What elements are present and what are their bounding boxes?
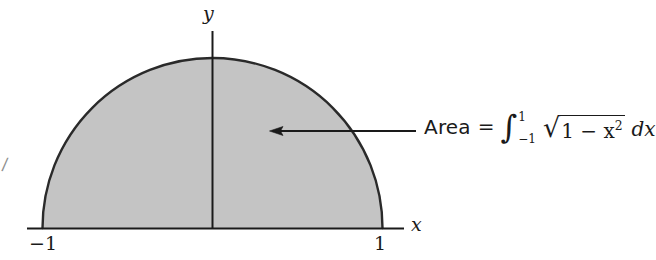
radical-sign-icon: √ (543, 114, 560, 142)
square-root-expression: √ 1 − x2 (543, 113, 625, 141)
x-tick-label-negative-one: −1 (29, 234, 57, 253)
integral-limits: 1 −1 (518, 111, 536, 145)
radicand-exponent: 2 (615, 118, 623, 133)
radicand-base: 1 − x (561, 119, 614, 143)
x-tick-label-positive-one: 1 (374, 234, 386, 253)
y-axis-label: y (203, 4, 214, 23)
area-annotation: Area = ∫ 1 −1 √ 1 − x2 dx (424, 110, 656, 144)
differential-dx: dx (632, 117, 656, 141)
scan-artifact-mark: / (1, 156, 13, 175)
integral-expression: ∫ 1 −1 (501, 110, 536, 144)
integral-sign-icon: ∫ (501, 115, 518, 141)
radicand: 1 − x2 (560, 115, 624, 143)
figure-root: y x −1 1 Area = ∫ 1 −1 √ 1 − x2 dx / (0, 0, 656, 260)
area-word-label: Area (424, 115, 471, 139)
x-axis-label: x (411, 215, 422, 234)
integral-lower-limit: −1 (518, 133, 536, 145)
equals-sign: = (478, 115, 495, 139)
integral-upper-limit: 1 (518, 111, 536, 123)
